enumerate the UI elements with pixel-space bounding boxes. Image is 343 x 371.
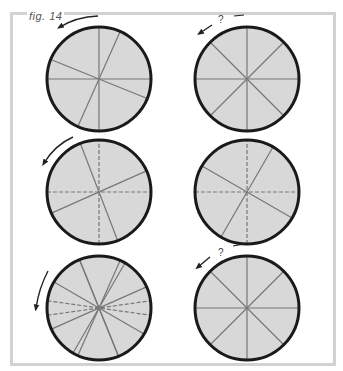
arrow-icon-top-left [60,16,98,27]
disc-middle-right [195,140,299,244]
figure-canvas: ? ? [0,0,343,371]
disc-bottom-left [47,256,151,360]
disc-middle-left [47,140,151,244]
disc-top-left [47,27,151,131]
arrow-icon-top-right [200,25,212,33]
dash-mark-top-right [234,15,244,16]
arrow-icon-bottom-right [198,257,210,267]
question-mark-top-right: ? [218,14,224,25]
question-mark-bottom-right: ? [218,247,224,258]
disc-bottom-right [195,256,299,360]
disc-top-right [195,27,299,131]
